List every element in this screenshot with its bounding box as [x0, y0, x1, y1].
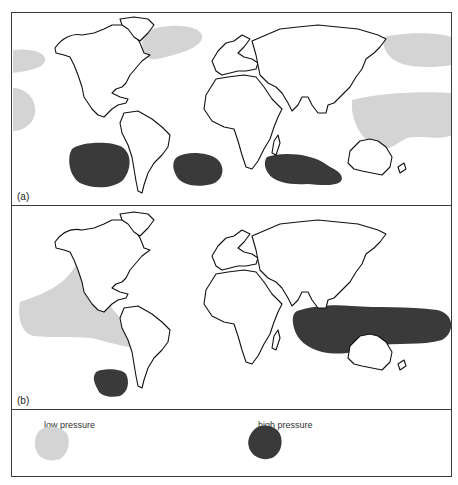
- legend-item-low: low pressure: [32, 424, 95, 430]
- world-map-b: [12, 206, 451, 409]
- low-pressure-swatch-icon: [32, 424, 70, 462]
- continents-b: [55, 212, 406, 388]
- world-map-a: [12, 13, 451, 205]
- pressure-map-figure: (a): [11, 12, 452, 477]
- map-panel-b: (b): [12, 206, 451, 410]
- legend-item-high: high pressure: [246, 424, 313, 430]
- panel-label-a: (a): [17, 191, 29, 202]
- legend: low pressure high pressure: [12, 410, 451, 477]
- map-panel-a: (a): [12, 13, 451, 206]
- panel-label-b: (b): [17, 395, 29, 406]
- high-pressure-swatch-icon: [246, 424, 284, 462]
